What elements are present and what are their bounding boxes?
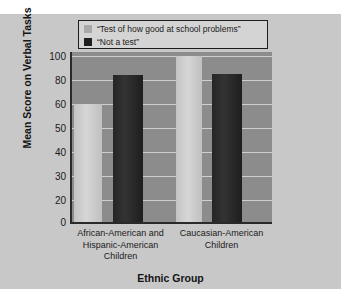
legend-item-not-a-test: “Not a test”	[84, 36, 263, 48]
legend-item-test-of-how-good: “Test of how good at school problems”	[84, 23, 263, 35]
legend-swatch-light-icon	[84, 25, 92, 33]
x-category-line: Hispanic-American	[70, 240, 171, 252]
y-tick-label: 80	[55, 75, 66, 86]
legend-label-series-1: “Test of how good at school problems”	[97, 24, 241, 34]
y-tick-label: 60	[55, 99, 66, 110]
x-category-label-group2: Caucasian-American Children	[171, 228, 272, 263]
bar-group2-series1	[176, 56, 202, 224]
figure-root: “Test of how good at school problems” “N…	[0, 0, 341, 302]
bar-group2-series2	[212, 74, 242, 224]
y-tick-label: 100	[49, 51, 66, 62]
y-axis-line	[70, 52, 72, 224]
x-category-label-group1: African-American and Hispanic-American C…	[70, 228, 171, 263]
x-category-line: Caucasian-American	[171, 228, 272, 240]
bar-group1-series2	[113, 75, 143, 224]
y-tick-label: 20	[55, 194, 66, 205]
x-axis-line	[70, 222, 272, 224]
x-category-line: Children	[70, 251, 171, 263]
legend-swatch-dark-icon	[84, 38, 92, 46]
y-tick-label: 40	[55, 146, 66, 157]
y-axis-tick-labels: 100 80 60 50 40 30 20 0	[0, 52, 66, 224]
y-tick-label: 30	[55, 170, 66, 181]
x-category-line: Children	[171, 240, 272, 252]
x-category-line: African-American and	[70, 228, 171, 240]
y-tick-label: 50	[55, 123, 66, 134]
plot-area	[70, 52, 272, 224]
legend-label-series-2: “Not a test”	[97, 37, 139, 47]
y-tick-label: 0	[60, 217, 66, 228]
x-axis-category-labels: African-American and Hispanic-American C…	[70, 228, 272, 263]
gridline	[70, 56, 272, 57]
x-axis-title: Ethnic Group	[0, 272, 341, 284]
bar-group1-series1	[74, 104, 102, 224]
chart-legend: “Test of how good at school problems” “N…	[78, 20, 268, 49]
